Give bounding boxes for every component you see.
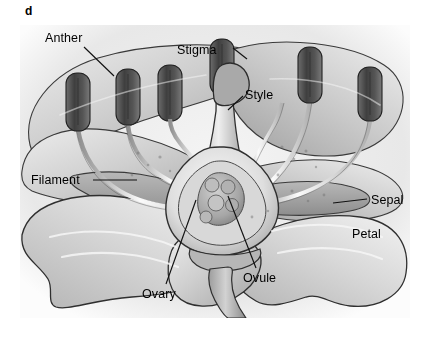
ovule-3 <box>208 195 224 211</box>
label-anther: Anther <box>45 32 82 45</box>
ovule-2 <box>221 180 235 194</box>
stipple-dot <box>137 152 140 155</box>
label-sepal: Sepal <box>371 194 403 207</box>
ovule-5 <box>200 211 212 223</box>
stipple-dot <box>307 200 310 203</box>
label-style: Style <box>245 89 273 102</box>
label-ovule: Ovule <box>243 272 276 285</box>
flower-illustration-svg <box>20 25 410 318</box>
label-petal: Petal <box>352 228 381 241</box>
stipple-dot <box>315 166 317 168</box>
stipple-dot <box>251 216 254 219</box>
stipple-dot <box>158 155 161 158</box>
label-stigma: Stigma <box>177 44 217 57</box>
stipple-dot <box>281 146 284 149</box>
figure-panel-d: d <box>0 0 428 337</box>
ovule-4 <box>226 199 239 212</box>
ovules-group <box>198 173 245 226</box>
stipple-dot <box>169 170 171 172</box>
label-filament: Filament <box>31 174 80 187</box>
stipple-dot <box>267 210 269 212</box>
label-ovary: Ovary <box>142 288 176 301</box>
stipple-dot <box>305 150 308 153</box>
panel-letter: d <box>25 5 32 17</box>
stipple-dot <box>291 190 294 193</box>
stipple-dot <box>293 158 296 161</box>
stipple-dot <box>277 174 280 177</box>
ovule-1 <box>205 178 219 192</box>
stipple-dot <box>147 164 150 167</box>
stipple-dot <box>131 174 134 177</box>
flower-illustration <box>20 25 410 318</box>
stipple-dot <box>323 194 326 197</box>
